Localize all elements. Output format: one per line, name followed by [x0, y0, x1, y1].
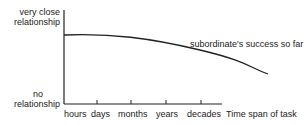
x-tick-label-days: days [91, 109, 110, 119]
x-tick-label-hours: hours [64, 109, 87, 119]
x-tick-label-months: months [118, 109, 148, 119]
plot-area [0, 0, 307, 125]
x-axis-title: Time span of task [226, 109, 297, 119]
series-label: subordinate's success so far [190, 39, 303, 49]
x-tick-label-decades: decades [187, 109, 221, 119]
x-tick-label-years: years [156, 109, 178, 119]
